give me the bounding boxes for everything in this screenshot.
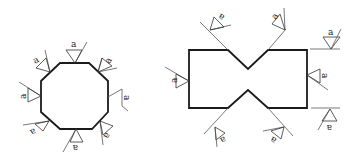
weld-label: a: [71, 39, 77, 49]
weld-label: a: [122, 95, 132, 101]
weld-symbol-bottom-left: a: [23, 121, 49, 138]
notched-rectangle-outline: [189, 50, 307, 108]
weld-label: a: [101, 131, 113, 141]
weld-symbol-bottom-right-flat: a: [311, 108, 340, 133]
weld-symbol-top-left: a: [31, 50, 50, 72]
weld-symbol-bottom: a: [63, 129, 83, 153]
octagon-outline: [41, 63, 108, 129]
weld-symbol-top-left: a: [200, 11, 231, 50]
octagon-figure: a a a a a: [18, 39, 132, 153]
weld-label: a: [326, 123, 332, 133]
weld-label: a: [269, 11, 281, 21]
weld-label: a: [328, 27, 334, 37]
weld-symbol-right: a: [108, 89, 132, 111]
weld-label: a: [18, 93, 28, 99]
weld-symbol-top: a: [66, 39, 87, 63]
weld-label: a: [72, 143, 78, 153]
weld-label: a: [28, 126, 38, 138]
weld-symbol-bottom-right: a: [100, 121, 113, 145]
weld-diagram: a a a a a: [0, 0, 358, 162]
weld-symbol-left: a: [165, 67, 189, 88]
weld-symbol-left: a: [18, 82, 41, 102]
weld-symbol-top-right: a: [98, 55, 117, 72]
notched-rectangle-figure: a a a a a: [165, 8, 341, 147]
weld-label: a: [103, 55, 115, 65]
weld-symbol-bottom-right: a: [263, 108, 293, 146]
weld-symbol-top-right: a: [268, 8, 286, 50]
weld-label: a: [218, 134, 228, 146]
weld-symbol-right: a: [307, 69, 330, 90]
weld-symbol-top-right-flat: a: [310, 27, 341, 49]
weld-symbol-bottom-left: a: [204, 108, 228, 147]
weld-label: a: [216, 11, 226, 23]
weld-label: a: [320, 73, 330, 79]
weld-label: a: [169, 77, 179, 83]
